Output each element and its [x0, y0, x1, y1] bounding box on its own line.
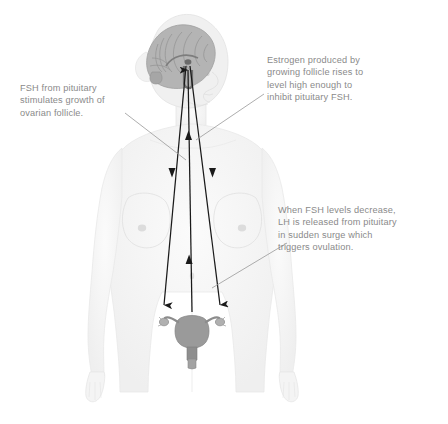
right-ovary [215, 318, 224, 326]
pituitary-gland [185, 59, 192, 65]
left-ovary [159, 318, 168, 326]
uterus-with-ovaries [158, 316, 226, 370]
callout-estrogen-inhibit: Estrogen produced by growing follicle ri… [267, 54, 427, 104]
callout-fsh-follicle: FSH from pituitary stimulates growth of … [20, 82, 150, 119]
callout-lh-surge: When FSH levels decrease, LH is released… [278, 204, 438, 254]
diagram-canvas: FSH from pituitary stimulates growth of … [0, 0, 448, 424]
